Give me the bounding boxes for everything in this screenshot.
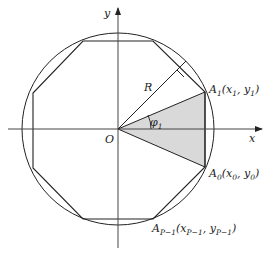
point-ap-1-label: AP−1(xP−1, yP−1) (151, 222, 236, 237)
point-a1-label: A1(x1, y1) (208, 83, 259, 98)
origin-label: O (105, 133, 114, 146)
x-axis-label: x (249, 132, 256, 145)
point-a0-label: A0(x0, y0) (208, 167, 259, 182)
y-axis-label: y (103, 7, 111, 20)
radius-label: R (143, 81, 152, 94)
polygon-diagram: y x O R φ1 A1(x1, y1) A0(x0, y0) AP−1(xP… (0, 0, 269, 260)
